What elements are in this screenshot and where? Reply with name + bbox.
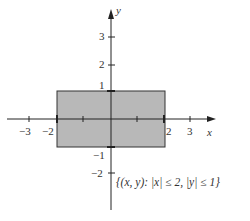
x-tick-label-3: 3 xyxy=(187,126,193,137)
x-tick-label-2: 2 xyxy=(166,126,172,137)
y-tick-label-1: 1 xyxy=(99,80,105,91)
y-tick-label-neg1: −1 xyxy=(93,150,105,161)
x-axis-label: x xyxy=(207,127,212,138)
y-axis-label: y xyxy=(116,5,121,16)
y-tick-label-2: 2 xyxy=(99,59,105,70)
x-tick-label-neg2: −2 xyxy=(42,126,54,137)
x-tick-label-neg3: −3 xyxy=(19,126,31,137)
x-axis-arrow-icon xyxy=(207,116,216,122)
set-annotation: {(x, y): |x| ≤ 2, |y| ≤ 1} xyxy=(116,176,220,188)
y-tick-label-neg2: −2 xyxy=(91,168,103,179)
y-axis-arrow-icon xyxy=(108,9,114,19)
y-tick-label-3: 3 xyxy=(99,31,105,42)
